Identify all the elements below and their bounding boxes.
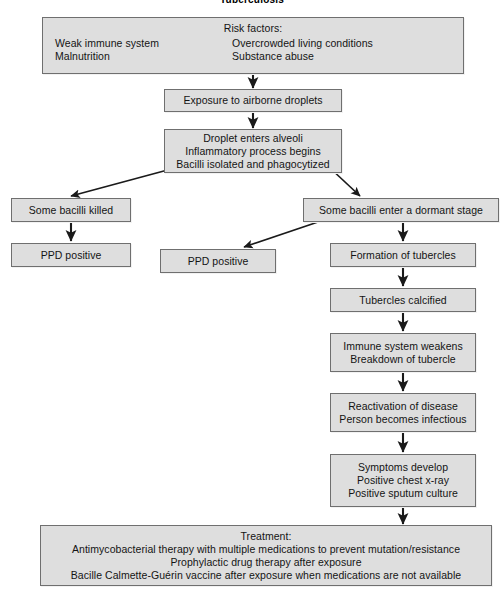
node-risk-factors[interactable]: Risk factors: Weak immune system Malnutr… xyxy=(42,17,464,74)
node-some-bacilli-killed[interactable]: Some bacilli killed xyxy=(11,198,131,222)
node-line: Droplet enters alveoli xyxy=(203,132,303,145)
risk-factors-right-column: Overcrowded living conditions Substance … xyxy=(232,37,373,63)
risk-factor-item: Substance abuse xyxy=(232,50,373,63)
node-symptoms-develop[interactable]: Symptoms develop Positive chest x-ray Po… xyxy=(330,454,476,507)
node-formation-of-tubercles[interactable]: Formation of tubercles xyxy=(330,243,476,267)
node-immune-system-weakens[interactable]: Immune system weakens Breakdown of tuber… xyxy=(330,333,476,372)
connector-dormant-stage-to-ppd-positive xyxy=(244,222,318,247)
node-ppd-positive-middle[interactable]: PPD positive xyxy=(160,249,276,273)
node-droplet-enters-alveoli[interactable]: Droplet enters alveoli Inflammatory proc… xyxy=(164,129,342,173)
node-line: Person becomes infectious xyxy=(339,413,466,426)
node-line: Some bacilli enter a dormant stage xyxy=(319,204,483,217)
risk-factor-item: Weak immune system xyxy=(55,37,159,50)
risk-factors-left-column: Weak immune system Malnutrition xyxy=(55,37,159,63)
risk-factors-columns: Weak immune system Malnutrition Overcrow… xyxy=(43,37,463,63)
node-line: Immune system weakens xyxy=(343,340,463,353)
node-line: Prophylactic drug therapy after exposure xyxy=(170,556,361,569)
node-line: PPD positive xyxy=(188,255,249,268)
node-line: Reactivation of disease xyxy=(348,400,458,413)
risk-factor-item: Overcrowded living conditions xyxy=(232,37,373,50)
node-line: Bacilli isolated and phagocytized xyxy=(176,158,329,171)
risk-factor-item: Malnutrition xyxy=(55,50,159,63)
node-exposure-to-airborne-droplets[interactable]: Exposure to airborne droplets xyxy=(164,89,342,112)
node-tubercles-calcified[interactable]: Tubercles calcified xyxy=(330,288,476,312)
node-line: Breakdown of tubercle xyxy=(350,353,456,366)
node-line: Symptoms develop xyxy=(358,461,448,474)
risk-factors-heading: Risk factors: xyxy=(43,22,463,35)
node-line: Bacille Calmette-Guérin vaccine after ex… xyxy=(71,569,461,582)
node-treatment[interactable]: Treatment: Antimycobacterial therapy wit… xyxy=(40,525,492,586)
flowchart-canvas: Tuberculosis xyxy=(0,0,504,591)
page-title: Tuberculosis xyxy=(0,0,504,5)
node-ppd-positive-left[interactable]: PPD positive xyxy=(11,243,131,267)
node-line: Positive sputum culture xyxy=(348,487,458,500)
node-reactivation-of-disease[interactable]: Reactivation of disease Person becomes i… xyxy=(330,393,476,432)
node-line: Inflammatory process begins xyxy=(185,145,321,158)
node-some-bacilli-enter-dormant-stage[interactable]: Some bacilli enter a dormant stage xyxy=(303,198,499,222)
node-line: Some bacilli killed xyxy=(29,204,113,217)
node-line: PPD positive xyxy=(41,249,102,262)
node-line: Exposure to airborne droplets xyxy=(183,94,322,107)
node-line: Antimycobacterial therapy with multiple … xyxy=(72,543,460,556)
node-line: Positive chest x-ray xyxy=(357,474,449,487)
node-line: Tubercles calcified xyxy=(359,294,447,307)
node-line: Formation of tubercles xyxy=(350,249,456,262)
treatment-heading: Treatment: xyxy=(241,530,292,543)
connector-droplet-to-bacilli-killed xyxy=(71,168,175,196)
